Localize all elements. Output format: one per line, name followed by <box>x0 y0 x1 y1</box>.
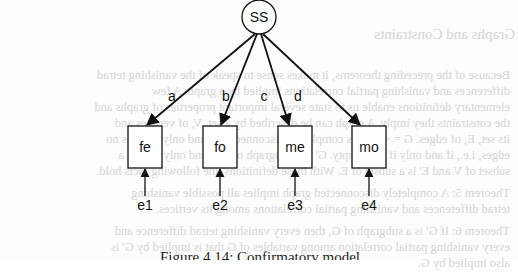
observed-node-label: fe <box>139 139 151 155</box>
error-label-e2: e2 <box>212 197 228 213</box>
observed-node-me: me <box>278 126 312 168</box>
latent-node-label: SS <box>250 9 269 25</box>
observed-node-label: me <box>285 139 305 155</box>
observed-node-label: fo <box>214 139 226 155</box>
loading-label-c: c <box>261 88 268 104</box>
loading-label-a: a <box>168 88 176 104</box>
figure-caption: Figure 4.14: Confirmatory model <box>160 247 360 260</box>
loading-label-d: d <box>294 88 302 104</box>
loading-label-b: b <box>222 88 230 104</box>
error-terms: e1 e2 e3 e4 <box>137 169 377 213</box>
loading-edges: a b c d <box>147 34 360 125</box>
loading-edge-c <box>261 34 289 125</box>
observed-node-label: mo <box>359 139 379 155</box>
error-label-e1: e1 <box>137 197 153 213</box>
observed-node-fe: fe <box>128 126 162 168</box>
loading-edge-d <box>263 34 360 125</box>
error-label-e4: e4 <box>361 197 377 213</box>
latent-node-ss: SS <box>242 0 276 34</box>
observed-node-fo: fo <box>203 126 237 168</box>
error-label-e3: e3 <box>287 197 303 213</box>
observed-node-mo: mo <box>352 126 386 168</box>
